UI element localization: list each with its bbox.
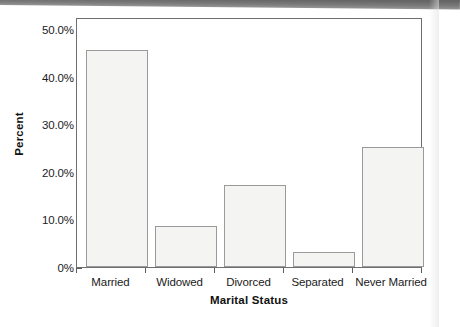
x-tick-mark-1 [145,268,146,273]
x-tick-mark-0 [76,268,77,273]
bar-married [86,50,148,267]
x-tick-label-married: Married [76,276,145,288]
bar-separated [293,252,355,267]
y-tick-label-40: 40.0% [12,72,74,84]
x-tick-mark-5 [421,268,422,273]
bar-divorced [224,185,286,267]
y-axis-title: Percent [13,99,25,169]
bar-never-married [362,147,424,267]
plot-area [76,18,422,268]
x-tick-mark-4 [352,268,353,273]
bar-widowed [155,226,217,267]
x-tick-label-separated: Separated [283,276,352,288]
x-tick-mark-3 [283,268,284,273]
x-tick-label-never-married: Never Married [352,276,430,288]
x-tick-label-divorced: Divorced [214,276,283,288]
y-tick-label-50: 50.0% [12,24,74,36]
y-tick-label-10: 10.0% [12,214,74,226]
x-axis-title: Marital Status [76,294,422,306]
x-tick-mark-2 [214,268,215,273]
y-tick-label-0: 0% [12,262,74,274]
x-tick-label-widowed: Widowed [145,276,214,288]
